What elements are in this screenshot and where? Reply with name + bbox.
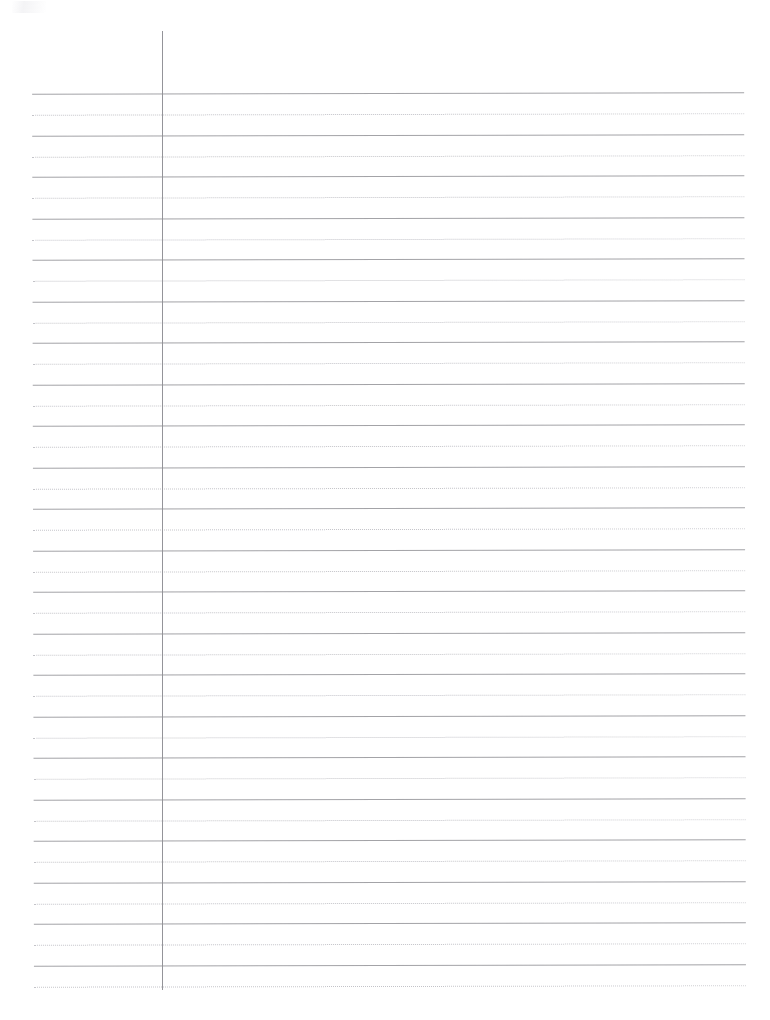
paper-page (0, 0, 770, 1020)
rule-line-dotted (34, 985, 746, 987)
margin-rule-line (162, 31, 163, 990)
writing-area[interactable] (170, 95, 740, 965)
